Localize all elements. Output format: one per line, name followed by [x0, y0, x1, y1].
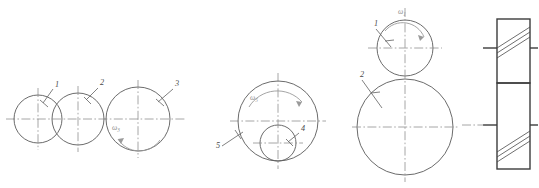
omega-arrowhead-group-b: [296, 101, 302, 107]
group-d-helical-side-view: [462, 19, 538, 169]
omega-arc-group-a: [118, 139, 160, 151]
ref-label-1-group-a: 1: [55, 80, 59, 89]
leader-tick-label-4-group-b: [286, 139, 293, 146]
omega-subscript-group-c: 1: [403, 11, 406, 17]
diagram-canvas: 1 2 3 ω3 4 5 ω5: [0, 0, 539, 188]
group-c-stacked-pair: 1 2 ω1: [352, 7, 458, 182]
leader-tick-label-1-group-c: [385, 40, 394, 41]
leader-line-label-2-group-a: [86, 88, 98, 100]
leader-line-label-2-group-c: [362, 80, 382, 108]
group-a-three-tangent-circles: 1 2 3 ω3: [6, 78, 186, 158]
omega-subscript-group-b: 5: [255, 97, 258, 103]
helix-line-lower-2: [497, 136, 530, 157]
ref-label-2-group-c: 2: [360, 70, 364, 79]
helix-line-lower-3: [497, 141, 530, 162]
mechanical-diagram-figure: 1 2 3 ω3 4 5 ω5: [0, 0, 539, 188]
helix-line-lower-1: [497, 131, 530, 152]
omega-subscript-group-a: 3: [117, 127, 120, 133]
group-b-internal-pair: 4 5 ω5: [216, 73, 326, 169]
helix-line-upper-1: [497, 27, 530, 48]
ref-label-2-group-a: 2: [100, 78, 104, 87]
ref-label-4-group-b: 4: [301, 124, 305, 133]
ref-label-5-group-b: 5: [216, 141, 220, 150]
omega-label-group-a: ω3: [112, 123, 120, 133]
side-view-block-lower: [497, 83, 530, 169]
omega-arc-group-c: [385, 23, 424, 37]
leader-line-label-5-group-b: [222, 132, 243, 146]
side-view-block-upper: [497, 19, 530, 83]
helix-line-upper-2: [497, 32, 530, 53]
helix-line-upper-3: [497, 37, 530, 58]
ref-label-1-group-c: 1: [374, 19, 378, 28]
leader-line-label-1-group-c: [376, 29, 391, 47]
omega-label-group-b: ω5: [250, 93, 258, 103]
ref-label-3-group-a: 3: [174, 79, 179, 88]
